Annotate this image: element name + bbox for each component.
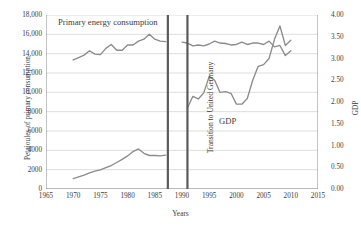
x-tick: 1995: [202, 192, 216, 200]
series-line-0: [73, 34, 165, 60]
y-tick-left: 2000: [28, 166, 42, 174]
y-axis-right-title: GDP: [352, 78, 360, 138]
gdp-label: GDP: [219, 116, 236, 126]
series-line-3: [187, 26, 290, 108]
chart-figure: Petajoules of primary consumption GDP Ye…: [0, 0, 361, 226]
y-tick-left: 14,000: [22, 50, 42, 58]
x-tick: 1990: [175, 192, 189, 200]
y-tick-right: 2.00: [331, 98, 344, 106]
transition-dividers: [168, 15, 188, 189]
x-tick: 2010: [284, 192, 298, 200]
y-tick-right: 1.50: [331, 120, 344, 128]
y-tick-right: 4.00: [331, 11, 344, 19]
y-tick-left: 6000: [28, 127, 42, 135]
y-tick-right: 1.00: [331, 142, 344, 150]
series-line-2: [73, 149, 165, 179]
y-tick-left: 10,000: [22, 88, 42, 96]
data-series: [73, 26, 291, 179]
x-tick: 1980: [120, 192, 134, 200]
tick-marks: [46, 15, 318, 189]
x-tick: 2000: [229, 192, 243, 200]
x-tick: 2005: [256, 192, 270, 200]
y-tick-left: 8000: [28, 108, 42, 116]
x-tick: 1970: [66, 192, 80, 200]
x-tick: 1985: [148, 192, 162, 200]
x-tick: 1975: [93, 192, 107, 200]
y-tick-right: 0.50: [331, 163, 344, 171]
y-tick-left: 18,000: [22, 11, 42, 19]
x-tick: 1965: [39, 192, 53, 200]
y-tick-right: 0.00: [331, 185, 344, 193]
primary-energy-label: Primary energy consumption: [58, 17, 158, 27]
y-tick-right: 2.50: [331, 76, 344, 84]
y-tick-right: 3.00: [331, 55, 344, 63]
plot-frame: [46, 15, 318, 189]
transition-label: Transition to United Germany: [206, 48, 215, 168]
y-tick-left: 4000: [28, 146, 42, 154]
gridlines: [46, 15, 318, 189]
y-tick-left: 16,000: [22, 30, 42, 38]
plot-area: [46, 15, 318, 189]
x-axis-title: Years: [0, 209, 361, 218]
x-tick: 2015: [311, 192, 325, 200]
y-tick-left: 12,000: [22, 69, 42, 77]
y-tick-right: 3.50: [331, 33, 344, 41]
